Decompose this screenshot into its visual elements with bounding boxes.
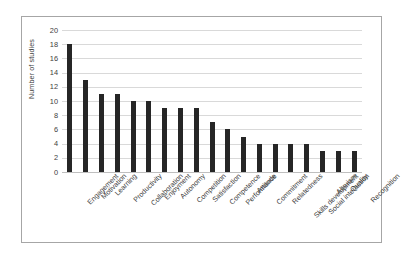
y-tick-label: 12	[40, 83, 58, 90]
chart-figure: Number of studies 20181614121086420 Enga…	[21, 16, 382, 243]
bar	[320, 151, 325, 172]
y-tick-label: 16	[40, 55, 58, 62]
y-tick-label: 2	[40, 154, 58, 161]
bar	[288, 144, 293, 172]
bar	[273, 144, 278, 172]
bar	[257, 144, 262, 172]
bar	[225, 129, 230, 172]
bar	[241, 137, 246, 173]
bar-series	[62, 30, 362, 172]
bar	[178, 108, 183, 172]
y-tick-label: 0	[40, 169, 58, 176]
bar	[210, 122, 215, 172]
y-tick-label: 8	[40, 112, 58, 119]
bar	[194, 108, 199, 172]
bar	[131, 101, 136, 172]
bar	[304, 144, 309, 172]
bar	[99, 94, 104, 172]
y-tick-label: 14	[40, 69, 58, 76]
y-tick-label: 18	[40, 41, 58, 48]
y-tick-label: 10	[40, 98, 58, 105]
bar	[83, 80, 88, 172]
bar	[352, 151, 357, 172]
y-tick-label: 4	[40, 140, 58, 147]
x-tick-label: Recognition	[370, 173, 402, 205]
y-tick-label: 20	[40, 27, 58, 34]
bar	[67, 44, 72, 172]
bar	[336, 151, 341, 172]
y-tick-label: 6	[40, 126, 58, 133]
plot-area: 20181614121086420	[62, 30, 362, 172]
y-axis-title: Number of studies	[27, 24, 39, 114]
bar	[146, 101, 151, 172]
bar	[115, 94, 120, 172]
bar	[162, 108, 167, 172]
